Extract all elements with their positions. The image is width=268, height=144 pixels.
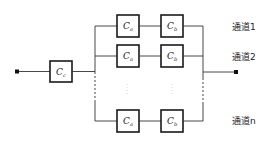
- input-terminal: [15, 70, 19, 74]
- channel-n-label: 通道n: [232, 115, 256, 126]
- reliability-diagram: Cc Ca Cb Ca Cb Ca Cb 通道1 通道2 通道n: [0, 0, 268, 144]
- channel-1-label: 通道1: [232, 21, 256, 32]
- output-terminal: [234, 70, 238, 74]
- channel-2-label: 通道2: [232, 51, 256, 62]
